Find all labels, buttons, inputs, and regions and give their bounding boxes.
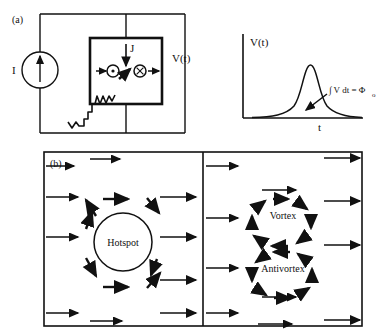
- arrow-pointer-icon: [306, 94, 327, 110]
- current-label: I: [12, 64, 16, 76]
- hotspot-scene: Hotspot: [46, 159, 196, 321]
- antivortex-label: Antivortex: [261, 263, 304, 274]
- panel-a: (a) I J: [12, 14, 191, 133]
- panel-b: (b) Hotspot: [44, 152, 362, 326]
- panel-b-label: (b): [50, 158, 62, 170]
- current-density-label: J: [130, 42, 135, 54]
- vortex-label: Vortex: [270, 210, 296, 221]
- vortex-circulation: Vortex: [252, 199, 311, 246]
- antivortex-circulation: Antivortex: [252, 252, 312, 298]
- voltage-pulse-plot: V(t) t ∫ V dt = Φ o: [243, 34, 376, 133]
- plot-annotation-subscript: o: [372, 91, 376, 99]
- plot-y-label: V(t): [250, 36, 269, 49]
- antivortex-cross-icon: [134, 65, 159, 77]
- squiggly-line-icon: [68, 95, 115, 128]
- vortex-antivortex-scene: Vortex Antivortex: [206, 158, 360, 324]
- plot-annotation: ∫ V dt = Φ: [328, 85, 366, 96]
- panel-a-label: (a): [12, 14, 23, 26]
- figure-container: (a) I J: [0, 0, 380, 334]
- voltage-label: V(t): [172, 52, 191, 65]
- hotspot-label: Hotspot: [107, 237, 139, 248]
- current-source: [22, 52, 58, 88]
- arrow-right-icon: [119, 69, 130, 79]
- vortex-dot-icon: [96, 65, 119, 77]
- plot-x-label: t: [318, 121, 321, 133]
